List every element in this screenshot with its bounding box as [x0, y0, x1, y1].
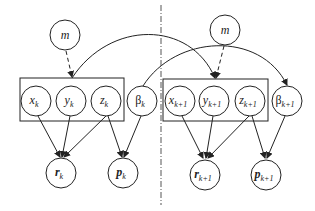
edge-beta-k-to-beta-k1 [143, 46, 287, 86]
node-m-k-label: m [61, 28, 70, 42]
time-slice-k: m xk yk zk βk rk pk [20, 20, 157, 188]
edge-x-r-k1 [182, 116, 203, 158]
edge-y-r-k [62, 116, 70, 157]
edge-beta-p-k [124, 116, 141, 157]
edge-y-r-k1 [206, 116, 213, 158]
time-slice-k1: m xk+1 yk+1 zk+1 βk+1 rk+1 pk+1 [163, 15, 302, 190]
graphical-model-diagram: m xk yk zk βk rk pk m xk+1 yk+1 [0, 0, 315, 211]
edge-m-to-plate-k [66, 51, 72, 77]
edge-z-r-k1 [208, 116, 249, 158]
edge-beta-p-k1 [267, 116, 285, 158]
edge-x-r-k [38, 116, 60, 157]
edge-z-p-k1 [252, 116, 265, 158]
edge-plate-k-to-plate-k1 [72, 35, 215, 79]
edge-z-p-k [108, 116, 122, 157]
edge-z-r-k [64, 116, 106, 157]
svg-text:m: m [221, 23, 230, 37]
edge-m-to-plate-k1 [216, 46, 224, 78]
